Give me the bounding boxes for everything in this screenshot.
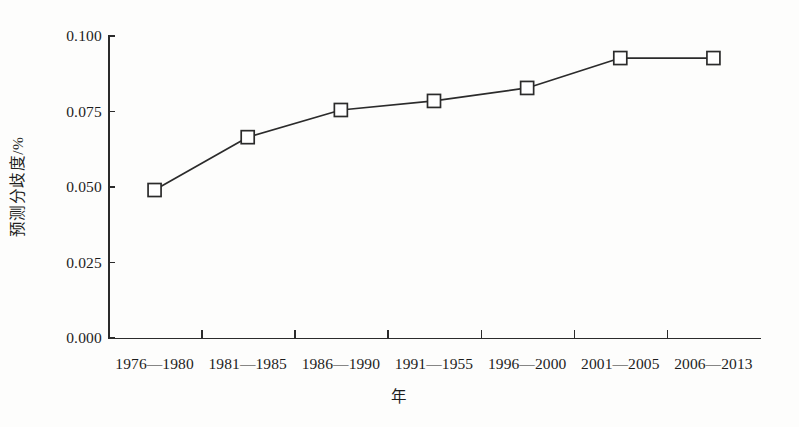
data-point-marker [707,52,720,65]
y-tick [108,262,115,263]
y-tick-label-wrap: 0.000 [38,330,102,346]
x-tick-label-wrap: 2006—2013 [653,355,773,373]
x-axis-line [108,338,761,340]
x-tick-label: 1976—1980 [115,355,193,372]
y-tick [108,337,115,338]
x-tick [481,330,482,338]
x-tick [574,330,575,338]
y-tick-label: 0.025 [40,255,102,271]
y-tick [108,111,115,112]
y-tick-label: 0.100 [40,28,102,44]
series-line [155,58,714,190]
y-tick [108,35,115,36]
x-tick-label: 2001—2005 [581,355,659,372]
y-tick [108,186,115,187]
data-point-marker [428,94,441,107]
x-tick [201,330,202,338]
x-tick [387,330,388,338]
x-tick-label: 2006—2013 [674,355,752,372]
data-point-marker [521,81,534,94]
y-tick-label: 0.000 [40,330,102,346]
y-tick-label-wrap: 0.100 [38,28,102,44]
x-axis-title: 年 [0,384,799,406]
x-tick [294,330,295,338]
y-tick-label: 0.075 [40,104,102,120]
y-tick-label-wrap: 0.025 [38,255,102,271]
x-tick [667,330,668,338]
x-tick-label: 1981—1985 [209,355,287,372]
x-tick-label: 1986—1990 [302,355,380,372]
x-tick-label: 1991—1955 [395,355,473,372]
x-tick-label: 1996—2000 [488,355,566,372]
y-axis-title: 预测分歧度/% [5,137,27,238]
y-tick-label: 0.050 [40,179,102,195]
data-point-marker [241,131,254,144]
y-tick-label-wrap: 0.075 [38,104,102,120]
y-tick-label-wrap: 0.050 [38,179,102,195]
chart-figure: 0.0000.0250.0500.0750.100 1976—19801981—… [0,0,799,427]
data-point-marker [334,103,347,116]
data-point-marker [614,52,627,65]
data-point-marker [148,184,161,197]
marker-group [148,52,720,197]
